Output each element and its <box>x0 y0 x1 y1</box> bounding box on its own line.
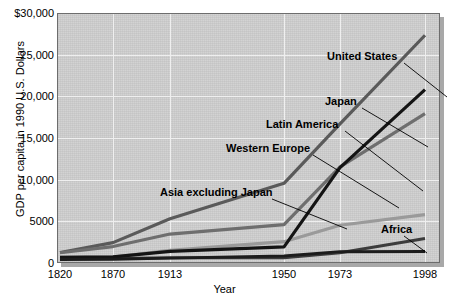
x-tick-label: 1998 <box>413 268 437 280</box>
y-tick-label: 25,000 <box>0 50 54 61</box>
chart-figure: GDP per capita in 1990 U.S. Dollars 0500… <box>0 0 449 301</box>
y-tick-label: 0 <box>0 258 54 269</box>
plot-shadow-right <box>440 17 444 267</box>
series-line <box>60 90 425 258</box>
series-label: Latin America <box>266 118 338 130</box>
plot-shadow-bottom <box>61 263 444 267</box>
series-label: Africa <box>381 223 412 235</box>
y-tick-label: 5000 <box>0 216 54 227</box>
series-label: Japan <box>325 95 357 107</box>
series-line <box>60 114 425 253</box>
x-tick-label: 1950 <box>272 268 296 280</box>
x-axis-title: Year <box>0 283 449 295</box>
series-label: Western Europe <box>226 142 310 154</box>
y-axis-tick-labels: 0500010,00015,00020,00025,000$30,000 <box>0 0 54 301</box>
y-tick-label: $30,000 <box>0 8 54 19</box>
series-label: Asia excluding Japan <box>160 186 272 198</box>
x-tick-label: 1870 <box>101 268 125 280</box>
series-label: United States <box>327 50 397 62</box>
x-tick-label: 1820 <box>48 268 72 280</box>
y-tick-label: 20,000 <box>0 91 54 102</box>
x-tick-label: 1913 <box>158 268 182 280</box>
x-tick-label: 1973 <box>328 268 352 280</box>
y-tick-label: 10,000 <box>0 175 54 186</box>
y-tick-label: 15,000 <box>0 133 54 144</box>
